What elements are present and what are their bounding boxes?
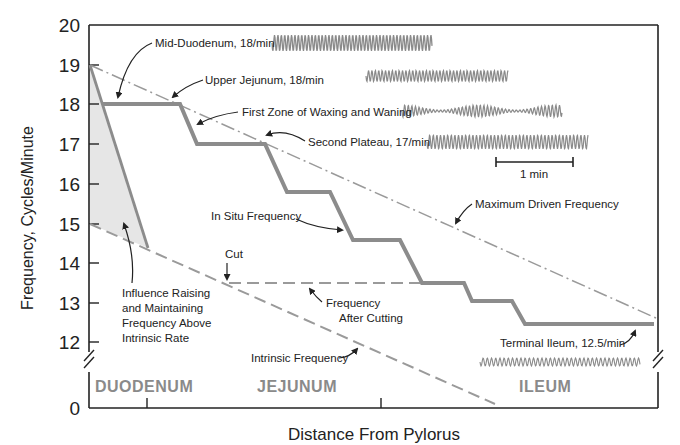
y-tick-17: 17	[59, 134, 80, 155]
label-cut: Cut	[225, 248, 244, 260]
trace-upper-jejunum	[366, 71, 508, 82]
arrow-upper-jejunum	[173, 80, 203, 97]
label-second-plateau: Second Plateau, 17/min	[308, 136, 430, 148]
label-upper-jejunum: Upper Jejunum, 18/min	[205, 74, 324, 86]
label-terminal-ileum: Terminal Ileum, 12.5/min	[500, 337, 625, 349]
arrow-max-driven	[456, 204, 472, 223]
label-influence-4: Intrinsic Rate	[122, 332, 189, 344]
y-tick-19: 19	[59, 55, 80, 76]
trace-mid-duodenum	[272, 35, 432, 51]
scale-bar-label: 1 min	[520, 168, 548, 180]
label-after-cutting-1: Frequency	[326, 297, 381, 309]
arrow-in-situ	[296, 219, 342, 230]
label-intrinsic: Intrinsic Frequency	[251, 352, 348, 364]
region-duodenum: DUODENUM	[95, 378, 193, 395]
x-axis-title: Distance From Pylorus	[288, 425, 460, 444]
arrow-first-zone	[198, 112, 238, 124]
label-influence-2: and Maintaining	[122, 302, 203, 314]
trace-second-plateau	[427, 135, 588, 149]
x-axis-ticks	[147, 398, 381, 408]
y-tick-12: 12	[59, 332, 80, 353]
y-tick-15: 15	[59, 214, 80, 235]
y-tick-20: 20	[59, 15, 80, 36]
label-after-cutting-2: After Cutting	[339, 312, 403, 324]
y-tick-13: 13	[59, 293, 80, 314]
label-influence-1: Influence Raising	[122, 287, 210, 299]
arrow-after-cutting	[310, 289, 322, 302]
intrinsic-frequency-line	[90, 224, 495, 404]
arrow-mid-duodenum	[118, 43, 152, 97]
y-tick-0: 0	[69, 398, 80, 419]
y-tick-18: 18	[59, 94, 80, 115]
y-tick-labels: 20 19 18 17 16 15 14 13 12 0	[59, 15, 81, 419]
scale-bar	[496, 157, 573, 167]
y-tick-14: 14	[59, 253, 81, 274]
trace-waxing-waning	[402, 105, 562, 117]
label-first-zone: First Zone of Waxing and Waning	[242, 106, 412, 118]
region-jejunum: JEJUNUM	[257, 378, 337, 395]
label-max-driven: Maximum Driven Frequency	[475, 198, 619, 210]
label-mid-duodenum: Mid-Duodenum, 18/min	[155, 37, 275, 49]
label-influence-3: Frequency Above	[122, 317, 212, 329]
y-axis-title: Frequency, Cycles/Minute	[19, 126, 36, 310]
arrow-second-plateau	[267, 133, 305, 141]
y-tick-16: 16	[59, 174, 80, 195]
trace-terminal-ileum	[480, 358, 640, 366]
frequency-gradient-chart: 20 19 18 17 16 15 14 13 12 0 Frequency, …	[0, 0, 680, 445]
region-ileum: ILEUM	[519, 378, 571, 395]
label-in-situ: In Situ Frequency	[211, 210, 301, 222]
